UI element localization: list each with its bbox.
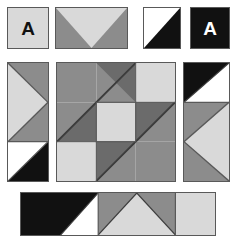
letter-a-light-label: A — [191, 8, 229, 48]
chevron-down-tile[interactable] — [55, 7, 128, 49]
chevron-down-shape — [56, 8, 127, 48]
right-column-tile[interactable] — [183, 62, 230, 182]
diagonal-white-black-tile[interactable] — [143, 7, 181, 49]
center-cell-r2c2 — [96, 102, 135, 141]
diagonal-white-black-shape — [144, 8, 180, 48]
right-column-shape — [184, 63, 229, 181]
tile-board: A A — [0, 0, 237, 243]
bottom-cell-4 — [175, 193, 215, 235]
bottom-strip-shape — [21, 193, 215, 235]
center-cell-r3c3 — [136, 142, 175, 181]
letter-a-light-tile[interactable]: A — [7, 7, 49, 49]
center-block-shape — [57, 63, 175, 181]
left-column-tile[interactable] — [7, 62, 49, 182]
center-cell-r1c3 — [136, 63, 175, 102]
letter-a-dark-label: A — [8, 8, 48, 48]
letter-a-black-tile[interactable]: A — [190, 7, 230, 49]
center-cell-r3c1 — [57, 142, 96, 181]
center-block-tile[interactable] — [56, 62, 176, 182]
bottom-strip-tile[interactable] — [20, 192, 216, 236]
center-cell-r1c1 — [57, 63, 96, 102]
left-column-shape — [8, 63, 48, 181]
